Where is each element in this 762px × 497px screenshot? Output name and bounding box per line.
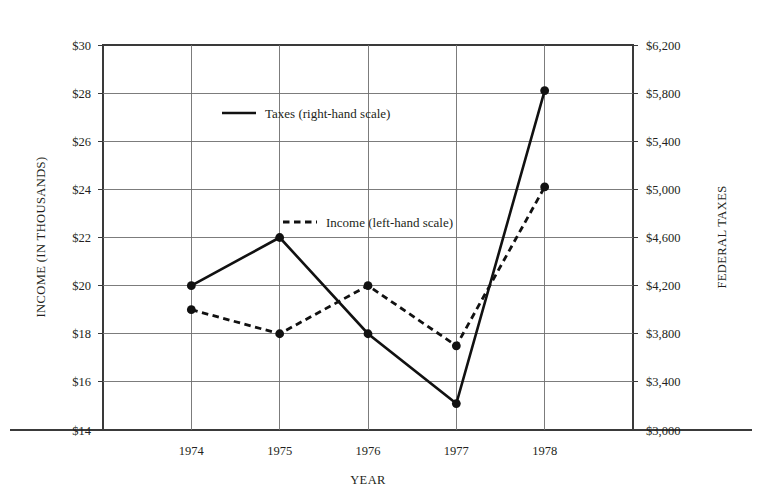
right-axis-tick-label: $4,600	[646, 231, 680, 245]
left-axis-tick-label: $18	[72, 327, 91, 341]
legend-label: Income (left-hand scale)	[326, 215, 453, 230]
chart-legend: Taxes (right-hand scale)Income (left-han…	[222, 106, 453, 230]
left-axis-tick-labels: $14$16$18$20$22$24$26$28$30	[72, 39, 92, 438]
x-axis-tick-label: 1974	[179, 444, 205, 458]
legend-label: Taxes (right-hand scale)	[265, 106, 390, 121]
right-axis-tick-label: $3,000	[646, 424, 680, 438]
left-axis-tick-label: $26	[72, 135, 91, 149]
left-axis-tick-label: $24	[72, 183, 92, 197]
right-axis-tick-label: $4,200	[646, 279, 680, 293]
data-point-marker	[187, 281, 196, 290]
right-axis-title: FEDERAL TAXES	[715, 185, 729, 288]
x-axis-tick-label: 1976	[356, 444, 381, 458]
x-axis-title: YEAR	[350, 473, 386, 487]
chart-figure: $14$16$18$20$22$24$26$28$30 $3,000$3,400…	[0, 0, 762, 497]
data-point-marker	[452, 341, 461, 350]
left-axis-tick-label: $30	[72, 39, 91, 53]
data-point-marker	[364, 281, 373, 290]
right-axis-tick-label: $5,000	[646, 183, 680, 197]
x-axis-tick-label: 1975	[267, 444, 292, 458]
left-axis-tick-label: $28	[72, 87, 91, 101]
left-axis-tick-label: $22	[72, 231, 91, 245]
left-axis-tick-label: $20	[72, 279, 91, 293]
data-point-marker	[275, 329, 284, 338]
data-point-marker	[540, 183, 549, 192]
legend-item-income: Income (left-hand scale)	[283, 215, 453, 230]
left-axis-tick-label: $16	[72, 375, 91, 389]
left-axis-tick-label: $14	[72, 424, 92, 438]
right-axis-tick-label: $3,800	[646, 327, 680, 341]
chart-canvas: $14$16$18$20$22$24$26$28$30 $3,000$3,400…	[0, 0, 762, 497]
data-point-marker	[364, 329, 373, 338]
right-axis-tick-label: $5,800	[646, 87, 680, 101]
right-axis-tick-labels: $3,000$3,400$3,800$4,200$4,600$5,000$5,4…	[646, 39, 680, 438]
data-point-marker	[275, 233, 284, 242]
data-point-marker	[187, 305, 196, 314]
legend-item-taxes: Taxes (right-hand scale)	[222, 106, 390, 121]
x-axis-tick-label: 1978	[532, 444, 557, 458]
x-axis-tick-labels: 19741975197619771978	[179, 444, 557, 458]
data-point-marker	[540, 86, 549, 95]
right-axis-tick-label: $5,400	[646, 135, 680, 149]
right-axis-tick-label: $3,400	[646, 375, 680, 389]
right-axis-tick-label: $6,200	[646, 39, 680, 53]
left-axis-title: INCOME (IN THOUSANDS)	[34, 157, 48, 318]
data-point-marker	[452, 399, 461, 408]
x-axis-tick-label: 1977	[444, 444, 469, 458]
